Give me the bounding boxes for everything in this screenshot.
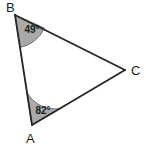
vertex-label-c: C xyxy=(131,63,140,78)
triangle-side-ac xyxy=(32,70,125,125)
vertex-label-b: B xyxy=(6,0,15,15)
vertex-label-a: A xyxy=(26,131,35,146)
angle-measure-b: 49° xyxy=(24,24,39,35)
triangle-diagram-svg: B A C 49° 82° xyxy=(0,0,146,147)
geometry-figure: B A C 49° 82° xyxy=(0,0,146,147)
angle-measure-a: 82° xyxy=(35,105,50,116)
